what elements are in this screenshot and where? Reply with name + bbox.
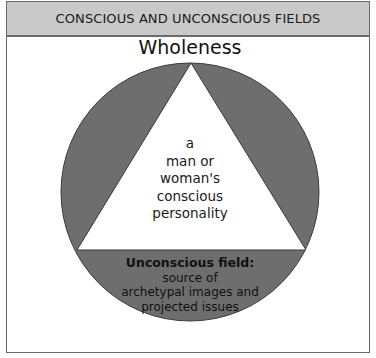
label-line: archetypal images and bbox=[100, 285, 280, 300]
label-line: source of bbox=[100, 271, 280, 286]
unconscious-heading: Unconscious field: bbox=[100, 256, 280, 271]
label-line: man or bbox=[130, 153, 250, 171]
label-line: projected issues bbox=[100, 300, 280, 315]
unconscious-field-label: Unconscious field: source of archetypal … bbox=[100, 256, 280, 314]
label-line: conscious bbox=[130, 188, 250, 206]
label-line: a bbox=[130, 135, 250, 153]
conscious-personality-label: a man or woman's conscious personality bbox=[130, 135, 250, 223]
wholeness-label: Wholeness bbox=[130, 36, 250, 58]
label-line: personality bbox=[130, 205, 250, 223]
label-line: woman's bbox=[130, 170, 250, 188]
